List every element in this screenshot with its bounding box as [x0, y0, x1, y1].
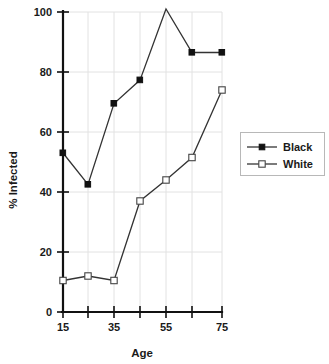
data-point-black-25: [85, 182, 91, 188]
data-point-white-25: [85, 273, 91, 279]
y-tick-label-40: 40: [40, 186, 52, 198]
x-tick-label-15: 15: [57, 321, 69, 333]
x-axis-title: Age: [131, 347, 153, 359]
x-tick-label-35: 35: [108, 321, 120, 333]
y-axis-title: % Infected: [7, 151, 19, 209]
y-tick-label-100: 100: [34, 6, 52, 18]
y-tick-label-20: 20: [40, 246, 52, 258]
legend-label-black: Black: [283, 141, 313, 153]
data-point-black-75: [219, 50, 225, 56]
data-point-black-45: [137, 77, 143, 83]
x-tick-labels: 15 35 55 75: [57, 321, 228, 333]
series-black-line: [63, 9, 222, 185]
y-tick-label-0: 0: [46, 306, 52, 318]
legend-label-white: White: [283, 158, 313, 170]
data-point-black-65: [189, 50, 195, 56]
legend[interactable]: Black White: [241, 133, 325, 176]
data-point-white-15: [60, 277, 66, 283]
data-point-white-45: [137, 198, 143, 204]
data-point-white-65: [189, 154, 195, 160]
data-point-white-75: [219, 87, 225, 93]
data-point-white-35: [111, 277, 117, 283]
y-tick-labels: 100 80 60 40 20 0: [34, 6, 52, 318]
grid-vertical: [88, 12, 222, 312]
x-tick-label-75: 75: [216, 321, 228, 333]
data-point-black-15: [60, 150, 66, 156]
chart-canvas: 100 80 60 40 20 0 15 35 55 75 Age % Infe…: [0, 0, 329, 364]
legend-marker-black: [259, 144, 265, 150]
grid-horizontal: [63, 12, 222, 252]
line-chart: 100 80 60 40 20 0 15 35 55 75 Age % Infe…: [0, 0, 329, 364]
y-tick-label-60: 60: [40, 126, 52, 138]
data-point-white-55: [163, 177, 169, 183]
x-tick-label-55: 55: [160, 321, 172, 333]
y-tick-label-80: 80: [40, 66, 52, 78]
data-point-black-35: [111, 101, 117, 107]
legend-marker-white: [259, 161, 265, 167]
series-black: [60, 9, 225, 187]
